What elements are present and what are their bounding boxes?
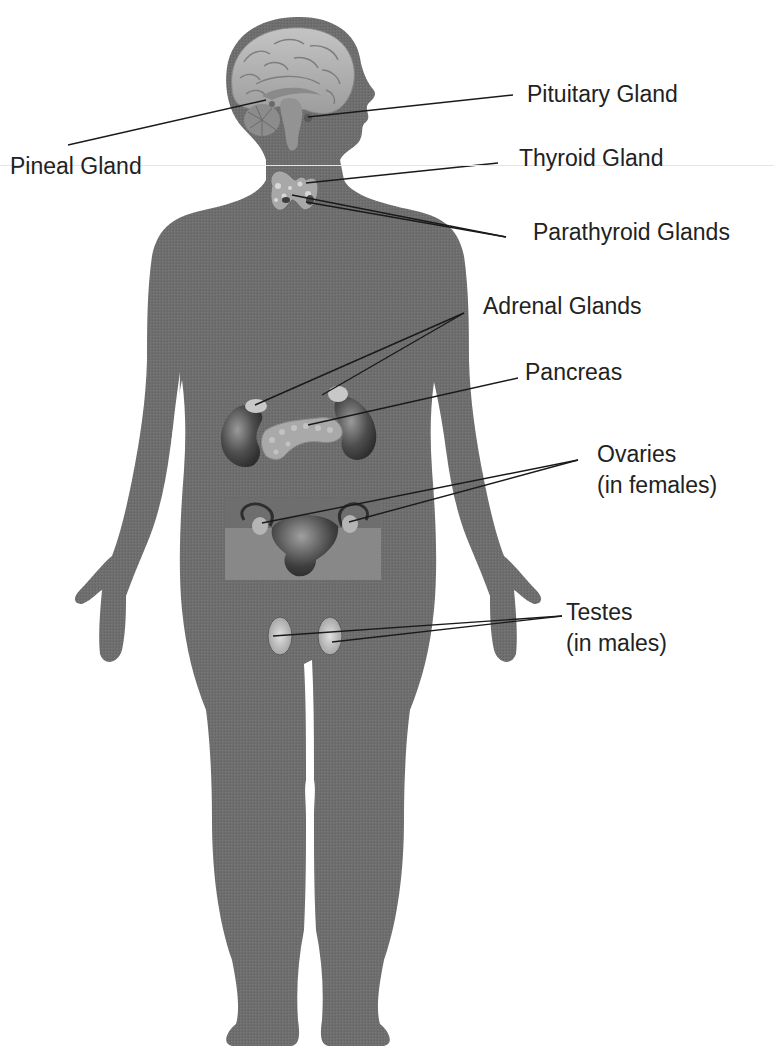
adrenal-gland-right [328,386,348,402]
label-adrenal-glands: Adrenal Glands [483,292,642,320]
ovary-right [342,515,358,533]
cerebellum [244,104,280,136]
label-text: Pineal Gland [10,153,142,179]
label-pineal-gland: Pineal Gland [10,152,142,180]
pituitary-gland [304,114,312,122]
label-text: Parathyroid Glands [533,219,730,245]
label-thyroid-gland: Thyroid Gland [519,144,663,172]
label-pancreas: Pancreas [525,358,622,386]
label-subtext: (in males) [566,629,667,657]
label-subtext: (in females) [597,471,717,499]
label-text: Pancreas [525,359,622,385]
label-text: Pituitary Gland [527,81,678,107]
label-text: Ovaries [597,440,717,468]
uterus-ovaries [225,498,381,580]
label-text: Testes [566,598,667,626]
pineal-gland [269,101,275,107]
label-ovaries: Ovaries (in females) [597,440,717,499]
ovary-left [252,517,268,535]
label-text: Adrenal Glands [483,293,642,319]
label-parathyroid-glands: Parathyroid Glands [533,218,730,246]
label-pituitary-gland: Pituitary Gland [527,80,678,108]
label-testes: Testes (in males) [566,598,667,657]
leader-pineal [68,100,266,145]
label-text: Thyroid Gland [519,145,663,171]
testis-right [318,617,342,655]
